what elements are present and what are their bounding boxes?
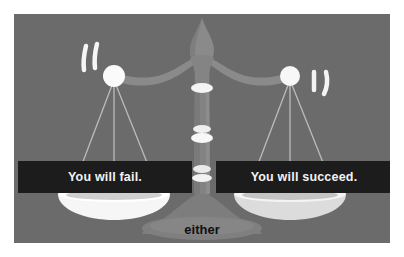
base-label-text: either (184, 222, 219, 237)
caption-left-text: You will fail. (68, 170, 142, 184)
balance-beam (114, 54, 290, 88)
left-pivot-ball (103, 65, 125, 87)
caption-bar-left: You will fail. (18, 161, 192, 193)
left-motion-marks (84, 44, 97, 70)
illustration-stage: You will fail. You will succeed. either (0, 0, 404, 257)
caption-right-text: You will succeed. (251, 170, 358, 184)
illustration-panel: You will fail. You will succeed. either (14, 14, 390, 243)
balance-scale-graphic (14, 14, 390, 243)
base-label: either (14, 222, 390, 237)
right-motion-marks (314, 72, 327, 94)
right-pivot-ball (280, 66, 300, 86)
caption-bar-right: You will succeed. (216, 161, 390, 193)
